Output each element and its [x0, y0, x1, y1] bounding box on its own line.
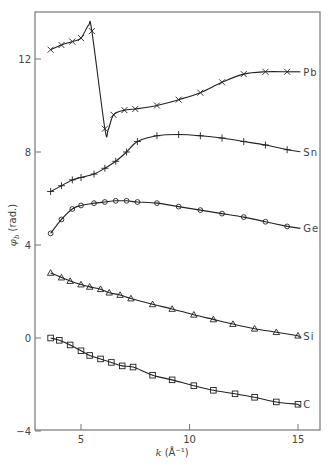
x-tick-label: 5 — [78, 434, 84, 445]
series-si: Si — [47, 270, 314, 342]
series-c: C — [48, 335, 312, 410]
series-label: C — [303, 399, 311, 410]
series-curve — [51, 21, 288, 137]
x-tick-label: 15 — [292, 434, 305, 445]
plot-frame — [35, 12, 320, 430]
series-curve — [51, 135, 288, 192]
series-curve — [51, 338, 298, 404]
series-pb: Pb — [48, 21, 318, 137]
y-tick-label: 8 — [25, 147, 31, 158]
series-curve — [51, 201, 288, 234]
phase-shift-chart: 51015 −404812 PbSnGeSiC φb (rad.) k (Å⁻¹… — [0, 0, 328, 467]
series-sn: Sn — [47, 131, 318, 195]
series-label: Ge — [303, 223, 319, 234]
y-axis-ticks: −404812 — [16, 54, 41, 437]
y-axis-title: φb (rad.) — [7, 204, 21, 246]
x-axis-title: k (Å⁻¹) — [155, 446, 188, 458]
x-tick-label: 10 — [183, 434, 196, 445]
series-curve — [51, 273, 298, 336]
series-label: Pb — [303, 67, 317, 78]
y-tick-label: 0 — [25, 333, 31, 344]
y-tick-label: −4 — [16, 426, 31, 437]
y-tick-label: 12 — [18, 54, 31, 65]
series-label: Sn — [303, 147, 318, 158]
x-axis-ticks: 51015 — [78, 424, 305, 445]
series-ge: Ge — [48, 198, 319, 235]
y-tick-label: 4 — [25, 240, 31, 251]
series-group: PbSnGeSiC — [47, 21, 319, 410]
series-label: Si — [303, 331, 314, 342]
